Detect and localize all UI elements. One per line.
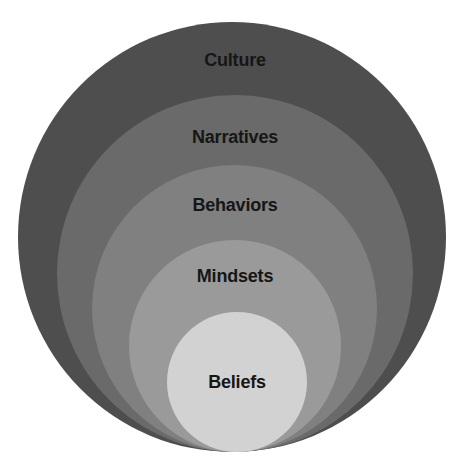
nested-circles-diagram: Culture Narratives Behaviors Mindsets Be… [0, 0, 470, 475]
beliefs-label: Beliefs [0, 372, 470, 392]
mindsets-label: Mindsets [0, 266, 470, 286]
behaviors-label: Behaviors [0, 195, 470, 215]
culture-label: Culture [0, 50, 470, 70]
narratives-label: Narratives [0, 127, 470, 147]
